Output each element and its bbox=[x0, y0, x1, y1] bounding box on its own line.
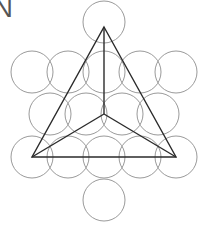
circle-packing-figure bbox=[0, 0, 206, 237]
spoke-to-bottom-left bbox=[32, 114, 104, 157]
triangle-and-spokes-group bbox=[32, 27, 176, 157]
spoke-to-bottom-right bbox=[104, 114, 176, 157]
circle-bottom bbox=[83, 179, 125, 221]
diagram-canvas: N bbox=[0, 0, 206, 237]
